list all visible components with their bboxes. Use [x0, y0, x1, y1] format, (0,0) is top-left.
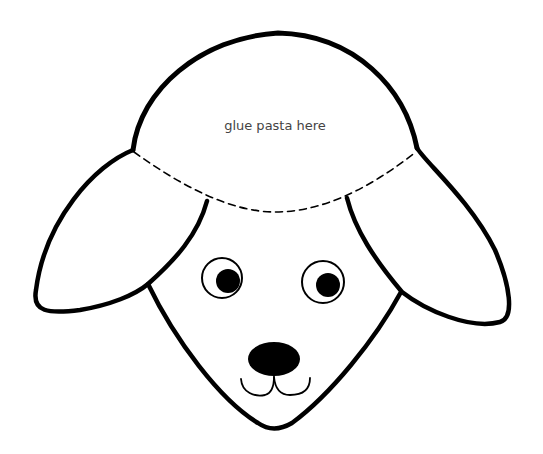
mouth-right-curve: [274, 377, 310, 395]
mouth-left-curve: [241, 377, 274, 395]
dashed-guide-line: [134, 152, 416, 212]
sheep-template-drawing: [0, 0, 543, 454]
left-ear-outline: [35, 150, 207, 312]
nose: [248, 342, 300, 376]
left-pupil: [216, 269, 240, 293]
right-pupil: [316, 273, 340, 297]
right-ear-outline: [347, 148, 509, 324]
glue-instruction-text: glue pasta here: [0, 118, 543, 133]
